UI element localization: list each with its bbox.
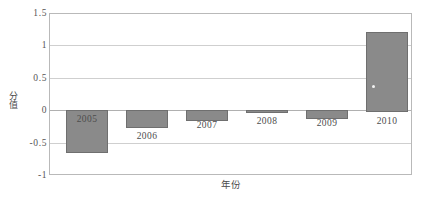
- category-label-2005: 2005: [77, 114, 98, 125]
- y-tick-label: 0: [1, 105, 47, 115]
- white-dot-artifact-icon: [372, 85, 375, 88]
- bars-layer: [50, 14, 411, 174]
- category-label-2009: 2009: [317, 118, 338, 129]
- y-tick-label: 0.5: [1, 73, 47, 83]
- y-axis-tick-labels: 1.5 1 0.5 0 -0.5 -1: [0, 0, 47, 200]
- category-label-2006: 2006: [137, 131, 158, 142]
- x-axis-title: 年份: [49, 180, 412, 191]
- category-label-2010: 2010: [377, 116, 398, 127]
- category-label-2007: 2007: [197, 120, 218, 131]
- y-tick-label: 1.5: [1, 8, 47, 18]
- plot-area: 2005 2006 2007 2008 2009 2010: [49, 13, 412, 175]
- bar-2006[interactable]: [126, 110, 168, 128]
- bar-2008[interactable]: [246, 110, 288, 113]
- category-label-2008: 2008: [257, 116, 278, 127]
- y-tick-label: 1: [1, 40, 47, 50]
- bar-chart: 分值 1.5 1 0.5 0 -0.5 -1: [0, 0, 423, 200]
- y-tick-label: -0.5: [1, 138, 47, 148]
- bar-2010[interactable]: [366, 32, 408, 112]
- y-tick-label: -1: [1, 170, 47, 180]
